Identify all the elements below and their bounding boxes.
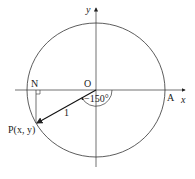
point-n-label: N xyxy=(31,78,38,89)
radius-label: 1 xyxy=(64,107,69,118)
y-axis-label: y xyxy=(85,4,91,15)
point-a-label: A xyxy=(167,92,175,103)
x-axis-label: x xyxy=(180,94,186,105)
point-p-label: P(x, y) xyxy=(8,124,35,136)
origin-label: O xyxy=(84,78,91,89)
angle-label: −150° xyxy=(84,93,109,104)
unit-circle-diagram: y x O N A −150° 1 P(x, y) xyxy=(0,0,195,179)
right-angle-marker xyxy=(36,90,40,94)
